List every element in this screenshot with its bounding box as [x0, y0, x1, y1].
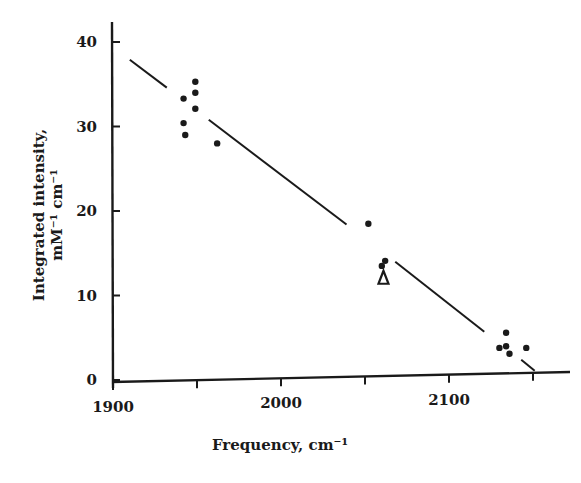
- x-tick-label: 2000: [260, 394, 302, 412]
- data-point: [503, 329, 509, 335]
- data-point: [503, 343, 509, 349]
- data-point: [214, 140, 220, 146]
- tick-marks: [112, 42, 533, 390]
- data-point: [192, 90, 198, 96]
- chart: 010203040190020002100 Frequency, cm⁻¹ In…: [0, 0, 581, 483]
- fit-line-segment: [521, 360, 534, 371]
- data-point: [180, 120, 186, 126]
- triangle-marker: [378, 271, 388, 284]
- fit-line: [130, 60, 535, 371]
- x-tick-label: 1900: [92, 398, 134, 416]
- axes: [112, 22, 570, 388]
- y-axis-title-line1: Integrated intensity,: [30, 129, 48, 301]
- tick-labels: 010203040190020002100: [76, 33, 470, 416]
- data-point: [506, 351, 512, 357]
- data-point: [379, 263, 385, 269]
- y-axis-title-line2: mM⁻¹ cm⁻¹: [48, 169, 66, 261]
- y-tick-label: 20: [76, 202, 97, 220]
- y-axis-line: [112, 22, 113, 388]
- fit-line-segment: [130, 60, 167, 88]
- fit-line-segment: [395, 262, 484, 332]
- data-point: [180, 95, 186, 101]
- data-point: [192, 79, 198, 85]
- data-point: [192, 106, 198, 112]
- y-tick-label: 30: [76, 118, 97, 136]
- y-tick-label: 40: [76, 33, 97, 51]
- y-axis-title: Integrated intensity, mM⁻¹ cm⁻¹: [30, 129, 66, 301]
- x-tick-label: 2100: [428, 391, 470, 409]
- data-point: [523, 345, 529, 351]
- x-axis-title: Frequency, cm⁻¹: [212, 436, 348, 454]
- data-point: [365, 220, 371, 226]
- x-axis-line: [112, 372, 570, 382]
- fit-line-segment: [209, 120, 347, 225]
- y-tick-label: 0: [87, 371, 97, 389]
- data-point: [496, 345, 502, 351]
- data-point: [182, 132, 188, 138]
- y-tick-label: 10: [76, 287, 97, 305]
- data-points: [180, 79, 529, 357]
